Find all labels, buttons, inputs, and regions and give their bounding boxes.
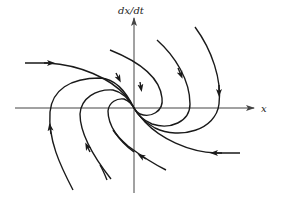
direction-arrow	[140, 82, 141, 88]
trajectory	[108, 99, 134, 152]
trajectory	[113, 130, 166, 170]
direction-arrow	[50, 127, 51, 134]
y-axis-label: dx/dt	[118, 5, 145, 16]
trajectory	[134, 27, 220, 133]
trajectory	[80, 90, 134, 179]
trajectory	[110, 50, 162, 115]
trajectory	[134, 40, 190, 126]
x-axis-label: x	[261, 103, 267, 114]
direction-arrow	[116, 73, 119, 79]
trajectories-left	[25, 63, 134, 190]
phase-portrait: dx/dt x	[0, 0, 283, 203]
